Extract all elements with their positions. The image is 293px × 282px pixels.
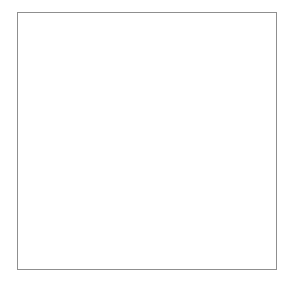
injury-rate-chart [18, 13, 276, 269]
chart-frame [17, 12, 277, 270]
figure-root [0, 0, 293, 282]
